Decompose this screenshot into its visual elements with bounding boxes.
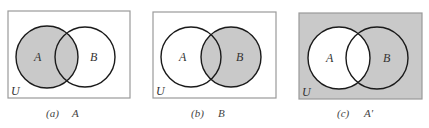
set-a-label: A	[178, 50, 187, 64]
universe-label: U	[156, 84, 166, 98]
caption-letter: (a)	[46, 107, 59, 120]
caption-set: A	[71, 107, 79, 119]
panel-b: A B U (b) B	[153, 12, 276, 120]
set-a-label: A	[33, 50, 42, 64]
panel-c: A B U (c) A′	[299, 13, 422, 120]
set-b-label: B	[383, 51, 391, 65]
caption-set: A′	[363, 107, 374, 119]
set-b-label: B	[236, 50, 244, 64]
caption-letter: (c)	[337, 107, 350, 120]
universe-label: U	[302, 85, 312, 99]
venn-diagram-figure: A B U (a) A A B U (b) B A B U (c) A′	[0, 0, 429, 128]
panel-a: A B U (a) A	[8, 11, 130, 120]
caption-letter: (b)	[191, 107, 204, 120]
set-a-label: A	[325, 51, 334, 65]
universe-label: U	[11, 84, 21, 98]
set-b-label: B	[90, 50, 98, 64]
caption-set: B	[218, 107, 225, 119]
